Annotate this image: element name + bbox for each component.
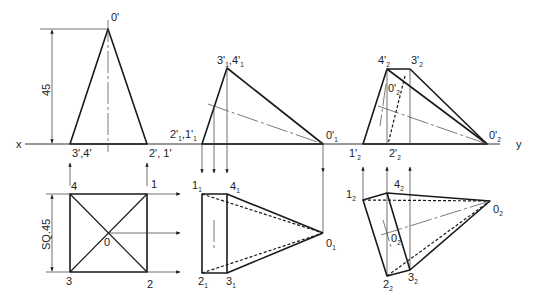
stage2-projectors bbox=[202, 144, 323, 233]
stage1-front-view: 45 0' 3',4' 2', 1' bbox=[40, 11, 172, 159]
s3-front-2-label: 2'2 bbox=[389, 147, 401, 161]
projection-drawing: x y 45 0' 3',4' 2', 1' SQ.45 4 1 3 2 0 bbox=[0, 0, 535, 304]
stage2-front-view: 3'1,4'1 2'1,1'1 0'1 bbox=[170, 54, 338, 144]
y-label: y bbox=[516, 138, 522, 150]
s3-top-3-label: 32 bbox=[408, 271, 418, 285]
s2-top-apex-label: 01 bbox=[326, 237, 336, 251]
corner-4-label: 4 bbox=[71, 180, 77, 192]
s3-top-1-label: 12 bbox=[346, 188, 356, 202]
s3-top-2-label: 22 bbox=[383, 278, 393, 292]
s3-front-center-label: 0'2 bbox=[388, 82, 400, 96]
corner-2-label: 2 bbox=[147, 278, 153, 290]
square-dimension: SQ.45 bbox=[40, 219, 52, 250]
apex-label: 0' bbox=[111, 11, 119, 23]
s3-front-apex-label: 0'2 bbox=[489, 129, 501, 143]
stage3-front-view: 4'2 3'2 0'2 1'2 2'2 0'2 bbox=[349, 54, 501, 161]
s2-top-2-label: 21 bbox=[198, 275, 208, 289]
s3-top-4-label: 42 bbox=[394, 178, 404, 192]
corner-3-label: 3 bbox=[66, 275, 72, 287]
s2-front-apex-label: 0'1 bbox=[326, 129, 338, 143]
s3-top-apex-label: 02 bbox=[493, 203, 503, 217]
s2-top-3-label: 31 bbox=[226, 275, 236, 289]
base-left-label: 3',4' bbox=[72, 147, 92, 159]
stage1-top-view: SQ.45 4 1 3 2 0 bbox=[40, 178, 157, 290]
s2-top-4-label: 41 bbox=[230, 180, 240, 194]
s3-front-3-label: 3'2 bbox=[411, 54, 423, 68]
base-right-label: 2', 1' bbox=[149, 147, 172, 159]
s3-front-1-label: 1'2 bbox=[349, 147, 361, 161]
height-dimension: 45 bbox=[40, 84, 52, 96]
stage2-top-view: 11 41 21 31 01 bbox=[192, 179, 336, 289]
s2-front-top-label: 3'1,4'1 bbox=[217, 54, 244, 68]
s2-front-left-label: 2'1,1'1 bbox=[170, 128, 197, 142]
center-label: 0 bbox=[104, 236, 110, 248]
stage1-to-stage2-projectors bbox=[108, 194, 180, 272]
s2-top-1-label: 11 bbox=[192, 179, 202, 193]
corner-1-label: 1 bbox=[151, 178, 157, 190]
stage3-top-view: 12 42 02 22 32 02 bbox=[346, 178, 503, 292]
s3-front-4-label: 4'2 bbox=[378, 54, 390, 68]
x-label: x bbox=[16, 138, 22, 150]
stage1-projectors bbox=[70, 163, 147, 186]
